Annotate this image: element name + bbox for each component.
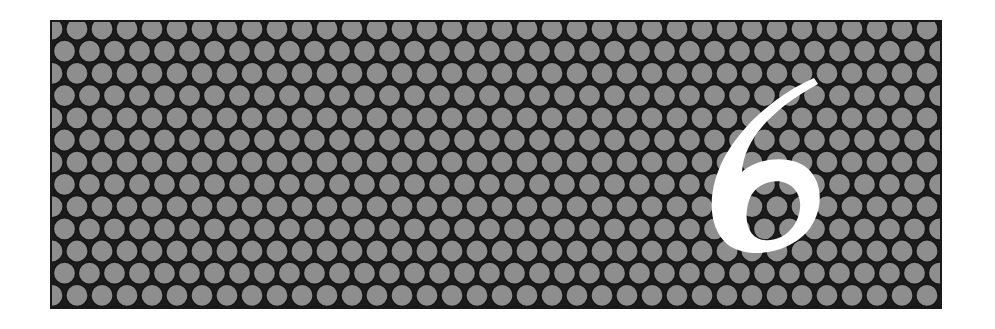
pattern-circle: [53, 40, 75, 62]
pattern-circle: [491, 107, 513, 129]
pattern-circle: [203, 40, 225, 62]
pattern-circle: [353, 40, 375, 62]
pattern-circle: [341, 107, 363, 129]
pattern-circle: [466, 22, 488, 40]
pattern-circle: [703, 84, 725, 106]
pattern-circle: [591, 195, 613, 217]
pattern-circle: [728, 218, 750, 240]
pattern-circle: [916, 151, 938, 173]
pattern-circle: [416, 22, 438, 40]
pattern-circle: [891, 62, 913, 84]
pattern-circle: [191, 151, 213, 173]
circle-grid: [52, 22, 940, 307]
pattern-circle: [253, 129, 275, 151]
pattern-circle: [778, 84, 800, 106]
pattern-circle: [628, 173, 650, 195]
pattern-circle: [166, 62, 188, 84]
pattern-circle: [741, 151, 763, 173]
pattern-circle: [753, 173, 775, 195]
pattern-circle: [153, 218, 175, 240]
pattern-circle: [916, 284, 938, 306]
circle-pattern-background: [52, 22, 940, 307]
pattern-circle: [503, 40, 525, 62]
pattern-circle: [328, 40, 350, 62]
pattern-circle: [541, 62, 563, 84]
pattern-circle: [178, 218, 200, 240]
pattern-circle: [266, 240, 288, 262]
pattern-circle: [691, 22, 713, 40]
pattern-circle: [91, 107, 113, 129]
pattern-circle: [128, 173, 150, 195]
pattern-circle: [491, 195, 513, 217]
pattern-circle: [828, 129, 850, 151]
pattern-circle: [103, 40, 125, 62]
pattern-circle: [141, 195, 163, 217]
pattern-circle: [478, 262, 500, 284]
pattern-circle: [503, 262, 525, 284]
pattern-circle: [203, 84, 225, 106]
pattern-circle: [178, 173, 200, 195]
pattern-circle: [678, 173, 700, 195]
pattern-circle: [103, 84, 125, 106]
pattern-circle: [816, 195, 838, 217]
pattern-circle: [91, 22, 113, 40]
pattern-circle: [691, 107, 713, 129]
pattern-circle: [116, 107, 138, 129]
pattern-circle: [778, 262, 800, 284]
pattern-circle: [666, 284, 688, 306]
pattern-circle: [291, 22, 313, 40]
pattern-circle: [603, 84, 625, 106]
pattern-circle: [916, 107, 938, 129]
pattern-circle: [816, 284, 838, 306]
pattern-circle: [578, 173, 600, 195]
pattern-circle: [628, 129, 650, 151]
pattern-circle: [766, 284, 788, 306]
pattern-circle: [116, 62, 138, 84]
pattern-circle: [728, 173, 750, 195]
pattern-circle: [403, 40, 425, 62]
pattern-circle: [53, 218, 75, 240]
pattern-circle: [766, 22, 788, 40]
pattern-circle: [666, 107, 688, 129]
pattern-circle: [491, 240, 513, 262]
pattern-circle: [453, 129, 475, 151]
pattern-circle: [253, 84, 275, 106]
pattern-circle: [416, 240, 438, 262]
pattern-circle: [291, 284, 313, 306]
pattern-circle: [716, 240, 738, 262]
pattern-circle: [278, 84, 300, 106]
pattern-circle: [878, 84, 900, 106]
pattern-circle: [703, 40, 725, 62]
pattern-circle: [653, 262, 675, 284]
pattern-circle: [591, 151, 613, 173]
pattern-circle: [816, 107, 838, 129]
pattern-circle: [78, 262, 100, 284]
pattern-circle: [866, 22, 888, 40]
pattern-circle: [178, 129, 200, 151]
pattern-circle: [753, 129, 775, 151]
pattern-circle: [853, 173, 875, 195]
pattern-circle: [841, 284, 863, 306]
pattern-circle: [691, 195, 713, 217]
pattern-circle: [603, 40, 625, 62]
pattern-circle: [678, 84, 700, 106]
pattern-circle: [78, 218, 100, 240]
pattern-circle: [328, 129, 350, 151]
pattern-circle: [653, 218, 675, 240]
pattern-circle: [891, 151, 913, 173]
pattern-circle: [53, 84, 75, 106]
pattern-circle: [816, 22, 838, 40]
pattern-circle: [741, 195, 763, 217]
pattern-circle: [466, 195, 488, 217]
pattern-circle: [291, 62, 313, 84]
pattern-circle: [53, 173, 75, 195]
pattern-circle: [703, 129, 725, 151]
pattern-circle: [191, 284, 213, 306]
pattern-circle: [828, 218, 850, 240]
pattern-circle: [491, 22, 513, 40]
pattern-circle: [816, 62, 838, 84]
pattern-circle: [616, 240, 638, 262]
pattern-circle: [141, 240, 163, 262]
pattern-circle: [666, 151, 688, 173]
pattern-circle: [741, 107, 763, 129]
